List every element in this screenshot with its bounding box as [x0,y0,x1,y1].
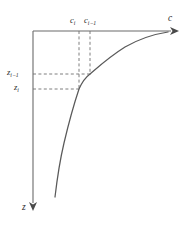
z-axis-arrowhead [29,202,37,211]
z-axis-label: z [22,203,26,213]
diagram-canvas [0,0,191,225]
concentration-profile-curve [55,32,168,197]
tick-label-c-i-minus-1-subscript: i−1 [88,20,96,26]
c-axis-label: c [168,14,172,24]
figure-container: c z ci ci−1 zi−1 zi [0,0,191,225]
tick-label-z-i-minus-1: zi−1 [7,68,19,77]
tick-label-z-i-subscript: i [17,87,19,93]
tick-label-z-i-minus-1-subscript: i−1 [10,72,18,78]
c-axis-arrowhead [170,27,179,35]
tick-label-z-i: zi [14,83,19,92]
tick-label-c-i: ci [70,16,75,25]
tick-label-c-i-subscript: i [74,20,76,26]
tick-label-c-i-minus-1: ci−1 [84,16,96,25]
